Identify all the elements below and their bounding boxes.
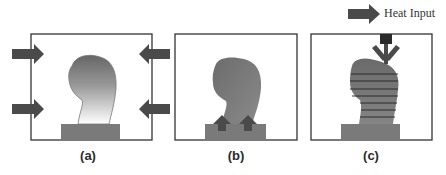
panel-c-label: (c)	[351, 148, 391, 163]
substrate	[341, 124, 400, 140]
legend-arrow-icon	[348, 4, 380, 24]
panel-c	[311, 4, 432, 140]
panel-a	[12, 34, 170, 140]
panel-b-label: (b)	[216, 148, 256, 163]
legend-heat-input-label: Heat Input	[384, 6, 435, 21]
nozzle-stem	[384, 44, 388, 64]
panel-a-label: (a)	[68, 148, 108, 163]
nozzle-icon	[380, 34, 392, 44]
substrate	[61, 124, 120, 140]
substrate	[205, 124, 266, 140]
panel-b	[175, 34, 297, 140]
